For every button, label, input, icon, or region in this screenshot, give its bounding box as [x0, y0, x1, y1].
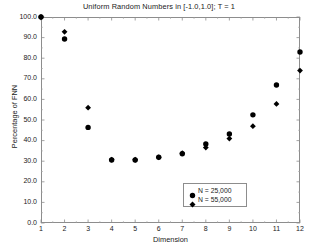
data-marker-layer: [0, 0, 318, 246]
chart-figure: Uniform Random Numbers in [-1.0,1.0]; T …: [0, 0, 318, 246]
legend-entry-1: N = 25,000: [188, 186, 241, 195]
data-point: [132, 157, 138, 163]
series-2-markers: [38, 14, 303, 163]
data-point: [297, 49, 302, 54]
legend-label: N = 25,000: [198, 187, 231, 194]
circle-marker-icon: [188, 186, 197, 195]
data-point: [274, 82, 279, 87]
legend-label: N = 55,000: [198, 196, 231, 203]
data-point: [156, 154, 162, 160]
data-point: [62, 36, 67, 41]
data-point: [297, 68, 303, 74]
chart-legend: N = 25,000N = 55,000: [183, 183, 247, 207]
legend-entry-2: N = 55,000: [188, 195, 241, 204]
data-point: [85, 125, 90, 130]
data-point: [38, 14, 44, 20]
data-point: [226, 136, 232, 142]
data-point: [250, 112, 255, 117]
data-point: [85, 105, 91, 111]
data-point: [62, 29, 68, 35]
series-1-markers: [38, 14, 302, 162]
data-point: [250, 123, 256, 129]
data-point: [274, 101, 280, 107]
diamond-marker-icon: [188, 195, 197, 204]
axis-ticks: [41, 17, 300, 223]
